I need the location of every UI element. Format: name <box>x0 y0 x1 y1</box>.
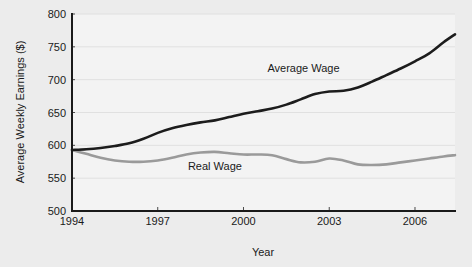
y-axis-tick-label: 550 <box>48 172 66 184</box>
x-axis-tick-label: 2003 <box>317 215 341 227</box>
x-axis-tick-label: 1997 <box>146 215 170 227</box>
x-axis-tick-label: 2006 <box>403 215 427 227</box>
x-axis-tick-label: 2000 <box>231 215 255 227</box>
y-axis-tick-label: 650 <box>48 107 66 119</box>
average-wage-label: Average Wage <box>267 62 339 74</box>
y-axis-tick-label: 800 <box>48 8 66 20</box>
wage-line-chart: 500550600650700750800 199419972000200320… <box>0 0 472 267</box>
x-axis-tick-label: 1994 <box>60 215 84 227</box>
y-axis-tick-label: 750 <box>48 41 66 53</box>
chart-svg: 500550600650700750800 199419972000200320… <box>0 0 472 267</box>
y-axis-tick-label: 600 <box>48 139 66 151</box>
y-axis-tick-label: 700 <box>48 74 66 86</box>
x-axis-title: Year <box>252 246 275 258</box>
real-wage-label: Real Wage <box>188 160 242 172</box>
y-axis-title: Average Weekly Earnings ($) <box>14 41 26 184</box>
